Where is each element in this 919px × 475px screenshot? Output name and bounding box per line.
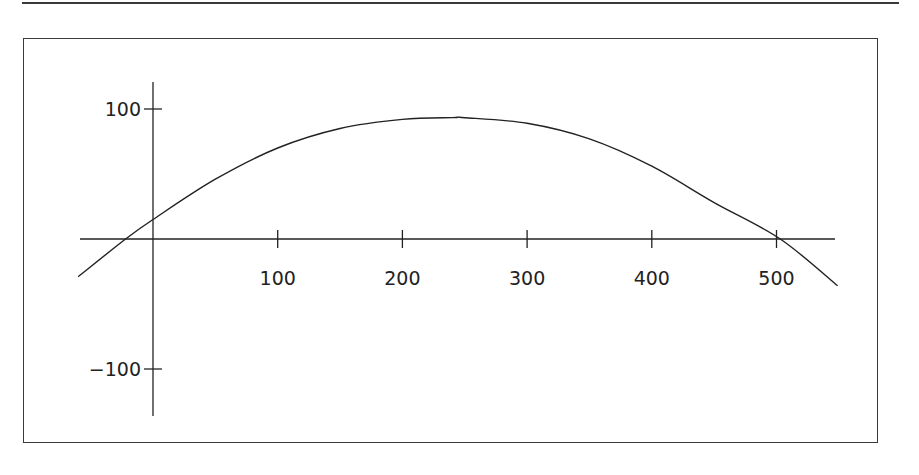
series-curve <box>78 117 837 286</box>
x-tick-label: 200 <box>384 267 420 289</box>
y-tick-label: 100 <box>105 98 141 120</box>
chart: 100200300400500 100−100 <box>0 0 919 475</box>
x-tick-label: 300 <box>509 267 545 289</box>
x-tick-label: 400 <box>634 267 670 289</box>
x-tick-label: 500 <box>758 267 794 289</box>
y-tick-label: −100 <box>89 358 141 380</box>
x-tick-label: 100 <box>260 267 296 289</box>
